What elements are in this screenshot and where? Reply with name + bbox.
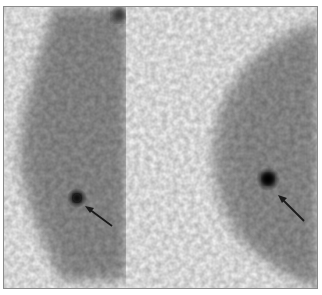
left-panel bbox=[4, 7, 126, 288]
figure-frame bbox=[3, 6, 318, 289]
hot-spot-corner bbox=[112, 8, 126, 22]
right-panel bbox=[126, 7, 317, 288]
scintigram-image bbox=[4, 7, 317, 288]
